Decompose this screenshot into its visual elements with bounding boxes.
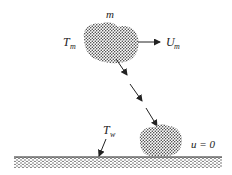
wall-temperature-label: T w [103,123,116,139]
transport-arrow-2 [130,84,142,101]
wall [14,157,222,168]
fluid-lump-main [84,22,139,63]
wall-velocity-label: u = 0 [191,138,215,150]
svg-text:m: m [70,42,76,51]
mass-label: m [106,8,114,20]
transport-arrow-3 [146,108,157,126]
main-velocity-label: U m [166,35,180,51]
fluid-lump-wall [140,124,182,156]
svg-text:w: w [110,130,116,139]
main-temperature-label: T m [63,35,76,51]
svg-text:m: m [174,42,180,51]
wall-temperature-arrow [99,139,106,156]
diagram-canvas: m T m U m u = 0 T w [0,0,232,175]
